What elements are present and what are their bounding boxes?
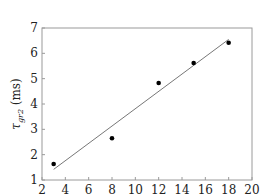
y-axis-label-subscript: gr2	[16, 109, 25, 123]
data-point	[110, 136, 115, 141]
data-point	[51, 162, 56, 167]
x-tick-label: 6	[85, 183, 93, 196]
plot-frame	[42, 28, 252, 180]
data-points	[51, 40, 231, 166]
y-tick-label: 4	[30, 97, 38, 111]
y-tick-label: 2	[30, 148, 38, 162]
y-axis-ticks: 1234567	[30, 21, 45, 187]
x-tick-label: 14	[174, 183, 190, 196]
y-tick-label: 6	[30, 46, 38, 60]
y-axis-label: τgr2 (ms)	[9, 78, 25, 129]
y-tick-label: 7	[30, 21, 38, 35]
x-tick-label: 12	[151, 183, 166, 196]
x-tick-label: 16	[198, 183, 213, 196]
scatter-chart: 1234567 2468101214161820 τgr2 (ms)	[0, 0, 264, 196]
y-tick-label: 1	[30, 173, 38, 187]
y-tick-label: 3	[30, 122, 38, 136]
x-tick-label: 4	[62, 183, 70, 196]
y-axis-label-unit: (ms)	[9, 78, 23, 109]
x-tick-label: 10	[128, 183, 143, 196]
y-tick-label: 5	[30, 72, 38, 86]
x-tick-label: 18	[221, 183, 236, 196]
x-tick-label: 20	[244, 183, 259, 196]
x-tick-label: 2	[38, 183, 46, 196]
data-point	[156, 81, 161, 86]
fit-line-path	[54, 39, 229, 169]
fit-line	[54, 39, 229, 169]
data-point	[191, 61, 196, 66]
data-point	[226, 40, 231, 45]
x-tick-label: 8	[108, 183, 116, 196]
